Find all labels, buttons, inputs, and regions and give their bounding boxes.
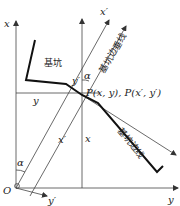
y-prime-axis-label: y′ — [47, 195, 57, 206]
alpha-bottom-label: α — [17, 157, 24, 168]
x-prime-axis-label: x′ — [100, 6, 109, 17]
y-prime-segment-label: y′ — [71, 75, 81, 86]
y-prime-axis — [16, 188, 47, 196]
pit-edge-label: 基坑边线 — [115, 125, 147, 160]
y-segment-label: y — [32, 95, 39, 106]
alpha-top-label: α — [84, 70, 91, 81]
x-axis-label: x — [4, 18, 10, 29]
x-segment-label: x — [85, 133, 91, 144]
coordinate-transform-diagram: x y O x′ y′ α α y y′ x′ x P(x, y), P(x′,… — [0, 0, 180, 206]
pit-label: 基坑 — [44, 57, 62, 68]
y-axis-label: y — [167, 194, 174, 205]
point-p-label: P(x, y), P(x′, y′) — [85, 87, 161, 98]
alpha-arc-bottom — [16, 170, 25, 172]
pit-edge-perpendicular-label: 基坑边垂线 — [96, 31, 128, 75]
x-prime-axis — [16, 20, 109, 188]
origin-label: O — [3, 185, 11, 196]
x-prime-segment-label: x′ — [58, 134, 67, 145]
